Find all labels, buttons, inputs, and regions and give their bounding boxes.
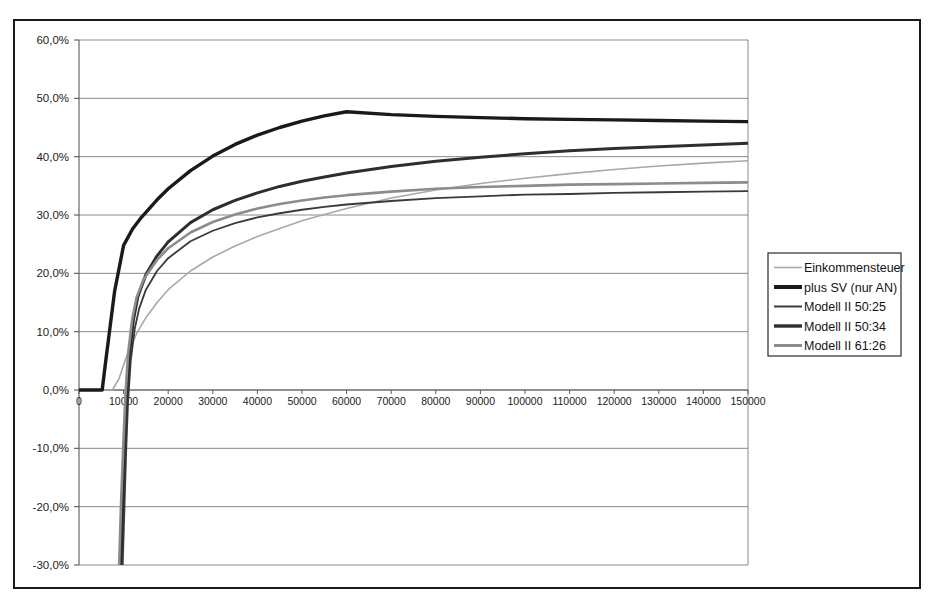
y-tick-label--20: -20,0% bbox=[33, 501, 69, 513]
y-tick-label--30: -30,0% bbox=[33, 559, 69, 571]
legend-label-0: Einkommensteuer bbox=[804, 261, 905, 275]
x-tick-label-0: 0 bbox=[76, 395, 82, 407]
series-line-modell-ii-61-26 bbox=[119, 182, 748, 565]
chart-figure: 60,0%50,0%40,0%30,0%20,0%10,0%0,0%-10,0%… bbox=[0, 0, 936, 612]
legend-label-4: Modell II 61:26 bbox=[804, 339, 886, 353]
x-tick-label-130000: 130000 bbox=[641, 395, 676, 407]
x-tick-label-110000: 110000 bbox=[552, 395, 586, 407]
x-tick-label-50000: 50000 bbox=[287, 395, 316, 407]
line-chart-canvas: 60,0%50,0%40,0%30,0%20,0%10,0%0,0%-10,0%… bbox=[0, 0, 936, 612]
series-line-modell-ii-50-25 bbox=[123, 191, 748, 565]
legend-label-1: plus SV (nur AN) bbox=[804, 281, 897, 295]
series-line-plus-sv-nur-an bbox=[79, 112, 748, 390]
y-tick-label-60: 60,0% bbox=[36, 34, 69, 46]
x-tick-label-40000: 40000 bbox=[243, 395, 272, 407]
x-tick-label-150000: 150000 bbox=[730, 395, 765, 407]
x-axis-tick-labels: 0100002000030000400005000060000700008000… bbox=[76, 395, 766, 407]
x-tick-label-90000: 90000 bbox=[466, 395, 495, 407]
y-tick-label-10: 10,0% bbox=[36, 326, 69, 338]
y-tick-label-50: 50,0% bbox=[36, 92, 69, 104]
y-tick-label-0: 0,0% bbox=[43, 384, 69, 396]
series-line-modell-ii-50-34 bbox=[121, 143, 748, 565]
y-tick-label-20: 20,0% bbox=[36, 267, 69, 279]
legend-label-3: Modell II 50:34 bbox=[804, 320, 886, 334]
y-tick-label-40: 40,0% bbox=[36, 151, 69, 163]
y-tick-label-30: 30,0% bbox=[36, 209, 69, 221]
chart-legend: Einkommensteuerplus SV (nur AN)Modell II… bbox=[768, 253, 905, 356]
x-tick-label-70000: 70000 bbox=[377, 395, 406, 407]
x-tick-label-30000: 30000 bbox=[198, 395, 227, 407]
data-series-group bbox=[79, 112, 748, 565]
x-tick-label-100000: 100000 bbox=[507, 395, 542, 407]
x-tick-label-140000: 140000 bbox=[686, 395, 721, 407]
y-axis-tick-labels: 60,0%50,0%40,0%30,0%20,0%10,0%0,0%-10,0%… bbox=[33, 34, 69, 571]
x-tick-label-120000: 120000 bbox=[597, 395, 632, 407]
x-tick-label-20000: 20000 bbox=[154, 395, 183, 407]
x-tick-label-60000: 60000 bbox=[332, 395, 361, 407]
x-tick-label-10000: 10000 bbox=[109, 395, 138, 407]
series-line-einkommensteuer bbox=[79, 161, 748, 390]
x-tick-label-80000: 80000 bbox=[421, 395, 450, 407]
legend-label-2: Modell II 50:25 bbox=[804, 300, 886, 314]
y-tick-label--10: -10,0% bbox=[33, 442, 69, 454]
